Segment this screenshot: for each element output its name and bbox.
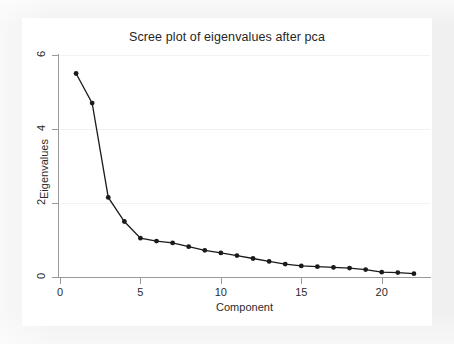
data-point	[347, 266, 352, 271]
x-tick-label: 0	[49, 286, 71, 298]
data-point	[331, 265, 336, 270]
y-tick-label: 0	[35, 269, 47, 283]
x-axis-title: Component	[58, 301, 431, 313]
series-markers	[74, 71, 417, 276]
figure-canvas: Scree plot of eigenvalues after pca 0246…	[0, 0, 454, 344]
data-point	[299, 264, 304, 269]
data-point	[235, 253, 240, 258]
graph-region: Scree plot of eigenvalues after pca 0246…	[22, 18, 432, 326]
data-point	[218, 251, 223, 256]
y-tick-mark	[52, 277, 58, 278]
data-point	[138, 236, 143, 241]
series-line	[76, 74, 414, 274]
data-point	[315, 264, 320, 269]
x-axis-line	[58, 277, 431, 278]
x-tick-label: 20	[371, 286, 393, 298]
data-series-eigenvalues	[60, 55, 430, 277]
data-point	[395, 270, 400, 275]
x-tick-mark	[382, 278, 383, 284]
data-point	[170, 241, 175, 246]
data-point	[122, 219, 127, 224]
x-tick-mark	[221, 278, 222, 284]
data-point	[363, 267, 368, 272]
y-tick-mark	[52, 55, 58, 56]
y-axis-line	[58, 54, 59, 278]
data-point	[251, 256, 256, 261]
data-point	[74, 71, 79, 76]
y-tick-label: 6	[35, 47, 47, 61]
x-tick-mark	[301, 278, 302, 284]
data-point	[106, 195, 111, 200]
y-tick-mark	[52, 129, 58, 130]
data-point	[202, 248, 207, 253]
data-point	[412, 271, 417, 276]
data-point	[90, 101, 95, 106]
data-point	[186, 244, 191, 249]
x-tick-mark	[140, 278, 141, 284]
x-tick-label: 15	[290, 286, 312, 298]
data-point	[267, 259, 272, 264]
chart-title: Scree plot of eigenvalues after pca	[22, 30, 432, 44]
data-point	[379, 270, 384, 275]
y-tick-mark	[52, 203, 58, 204]
data-point	[154, 239, 159, 244]
data-point	[283, 262, 288, 267]
x-tick-label: 10	[210, 286, 232, 298]
x-tick-mark	[60, 278, 61, 284]
plot-area	[60, 55, 430, 277]
y-axis-title: Eigenvalues	[38, 139, 50, 199]
x-tick-label: 5	[129, 286, 151, 298]
y-tick-label: 4	[35, 121, 47, 135]
